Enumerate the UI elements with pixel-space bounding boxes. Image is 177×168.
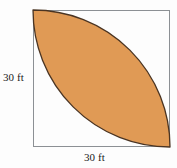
geometry-figure: 30 ft 30 ft (0, 0, 177, 168)
bottom-dimension-label: 30 ft (84, 151, 105, 163)
shaded-lens-region (33, 10, 170, 147)
left-dimension-label: 30 ft (3, 71, 24, 83)
figure-canvas (0, 0, 177, 168)
